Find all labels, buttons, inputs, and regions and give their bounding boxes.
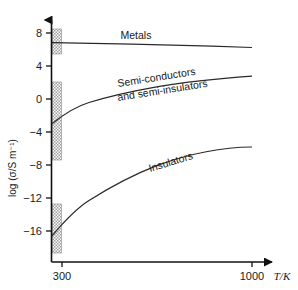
insulators-curve-label: Insulators [147, 149, 194, 174]
x-tick-label-300: 300 [53, 270, 71, 282]
y-axis-tick-labels: 8 4 0 −4 −8 −12 −16 [23, 27, 42, 237]
conductivity-vs-temperature-figure: 8 4 0 −4 −8 −12 −16 300 1000 T/K log (σ/… [0, 0, 298, 290]
y-tick-label-m4: −4 [29, 126, 42, 138]
x-tick-label-1000: 1000 [240, 270, 264, 282]
y-axis-ticks [46, 33, 52, 231]
metals-curve [52, 43, 252, 48]
y-tick-label-m16: −16 [23, 225, 42, 237]
y-tick-label-8: 8 [36, 27, 42, 39]
axis-range-bars [53, 29, 62, 253]
y-axis-title: log (σ/S m⁻¹) [7, 139, 18, 197]
y-tick-label-m8: −8 [29, 159, 42, 171]
y-tick-label-4: 4 [36, 60, 42, 72]
x-axis-tick-labels: 300 1000 [53, 270, 264, 282]
metals-range-bar [53, 29, 62, 54]
x-axis-title: T/K [274, 270, 291, 282]
semiconductors-range-bar [53, 82, 62, 160]
y-tick-label-0: 0 [36, 93, 42, 105]
y-tick-label-m12: −12 [23, 192, 42, 204]
metals-curve-label: Metals [121, 29, 152, 41]
insulators-range-bar [53, 204, 62, 253]
chart-canvas: 8 4 0 −4 −8 −12 −16 300 1000 T/K log (σ/… [0, 0, 298, 290]
